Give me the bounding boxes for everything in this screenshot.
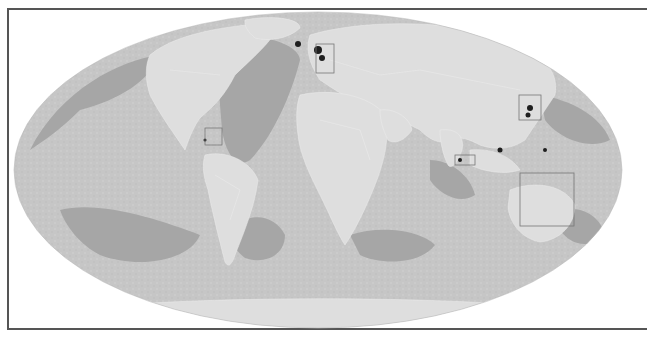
antarctica	[60, 299, 580, 338]
globe	[14, 12, 622, 338]
